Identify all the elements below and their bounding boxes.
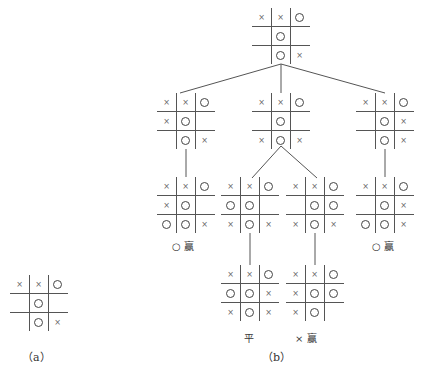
board-cell: × xyxy=(252,93,271,111)
board-cell xyxy=(305,215,324,233)
board-cell: × xyxy=(286,265,305,283)
cross-mark-icon: × xyxy=(381,182,388,191)
board-cell xyxy=(305,303,324,321)
board-cell: × xyxy=(252,8,271,26)
circle-mark-icon xyxy=(226,201,235,210)
board-cell: × xyxy=(394,215,413,233)
cross-mark-icon: × xyxy=(246,182,253,191)
circle-mark-icon xyxy=(53,280,62,289)
circle-mark-icon xyxy=(181,220,190,229)
board-cell xyxy=(10,294,29,312)
cross-mark-icon: × xyxy=(292,182,299,191)
board-cell xyxy=(375,215,394,233)
board-l2-3: ×××× xyxy=(286,177,344,233)
board-cell xyxy=(356,131,375,149)
circle-mark-icon xyxy=(34,299,43,308)
cross-mark-icon: × xyxy=(330,220,337,229)
board-cell: × xyxy=(259,215,278,233)
board-cell: × xyxy=(195,215,214,233)
cross-mark-icon: × xyxy=(16,280,23,289)
board-cell: × xyxy=(29,275,48,293)
board-cell xyxy=(271,131,290,149)
board-cell: × xyxy=(221,265,240,283)
board-cell: × xyxy=(157,93,176,111)
cross-mark-icon: × xyxy=(227,220,234,229)
cross-mark-icon: × xyxy=(258,98,265,107)
board-cell xyxy=(48,275,67,293)
board-cell: × xyxy=(356,93,375,111)
circle-mark-icon xyxy=(329,182,338,191)
cross-mark-icon: × xyxy=(292,289,299,298)
caption-b: （b） xyxy=(262,348,291,364)
board-cell xyxy=(29,294,48,312)
cross-mark-icon: × xyxy=(182,98,189,107)
board-cell: × xyxy=(290,46,309,64)
cross-mark-icon: × xyxy=(292,270,299,279)
board-cell xyxy=(176,215,195,233)
cross-mark-icon: × xyxy=(311,270,318,279)
cross-mark-icon: × xyxy=(362,182,369,191)
cross-mark-icon: × xyxy=(265,220,272,229)
board-cell xyxy=(221,284,240,302)
board-cell xyxy=(195,177,214,195)
cross-mark-icon: × xyxy=(362,98,369,107)
circle-mark-icon xyxy=(276,136,285,145)
board-cell xyxy=(324,177,343,195)
board-cell xyxy=(252,112,271,130)
circle-mark-icon xyxy=(226,289,235,298)
caption-a: （a） xyxy=(22,348,51,364)
board-cell: × xyxy=(176,177,195,195)
board-cell xyxy=(305,196,324,214)
board-cell: × xyxy=(375,93,394,111)
cross-mark-icon: × xyxy=(400,201,407,210)
cross-mark-icon: × xyxy=(277,13,284,22)
circle-mark-icon xyxy=(276,51,285,60)
cross-mark-icon: × xyxy=(292,220,299,229)
circle-mark-icon xyxy=(181,117,190,126)
board-l1-left: ×××× xyxy=(157,93,215,149)
board-cell xyxy=(271,112,290,130)
board-cell: × xyxy=(394,131,413,149)
cross-mark-icon: × xyxy=(54,318,61,327)
board-cell xyxy=(259,196,278,214)
cross-mark-icon: × xyxy=(227,270,234,279)
circle-mark-icon xyxy=(380,220,389,229)
circle-mark-icon xyxy=(310,308,319,317)
board-cell: × xyxy=(286,215,305,233)
board-cell xyxy=(356,112,375,130)
board-root: ××× xyxy=(252,8,310,64)
cross-mark-icon: × xyxy=(201,220,208,229)
circle-mark-icon xyxy=(276,32,285,41)
board-cell xyxy=(375,131,394,149)
board-cell: × xyxy=(221,177,240,195)
cross-mark-icon: × xyxy=(296,136,303,145)
edge-mid-l2a xyxy=(252,146,281,178)
circle-mark-icon xyxy=(295,13,304,22)
circle-mark-icon xyxy=(200,98,209,107)
cross-mark-icon: × xyxy=(292,308,299,317)
cross-mark-icon: × xyxy=(400,136,407,145)
board-cell xyxy=(290,27,309,45)
circle-mark-icon xyxy=(399,98,408,107)
board-cell: × xyxy=(195,131,214,149)
board-cell: × xyxy=(271,93,290,111)
board-cell: × xyxy=(286,177,305,195)
board-cell xyxy=(195,196,214,214)
cross-mark-icon: × xyxy=(258,136,265,145)
circle-mark-icon xyxy=(380,117,389,126)
board-cell xyxy=(29,313,48,331)
cross-mark-icon: × xyxy=(296,51,303,60)
circle-mark-icon xyxy=(399,182,408,191)
board-cell: × xyxy=(324,215,343,233)
cross-mark-icon: × xyxy=(311,182,318,191)
circle-mark-icon xyxy=(361,220,370,229)
board-cell: × xyxy=(305,177,324,195)
circle-mark-icon xyxy=(310,201,319,210)
board-cell xyxy=(176,112,195,130)
cross-mark-icon: × xyxy=(163,117,170,126)
board-cell xyxy=(240,196,259,214)
board-cell: × xyxy=(157,112,176,130)
board-cell xyxy=(356,215,375,233)
board-cell xyxy=(356,196,375,214)
circle-mark-icon xyxy=(245,220,254,229)
